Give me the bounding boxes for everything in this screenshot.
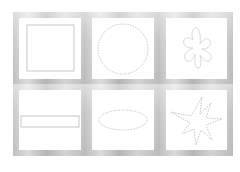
shape-grid xyxy=(13,12,233,156)
rectangle-shape-icon xyxy=(19,90,81,150)
panel-canvas xyxy=(92,90,154,150)
flower-shape-icon xyxy=(166,18,227,79)
panel-ellipse xyxy=(86,84,160,156)
panel-canvas xyxy=(19,18,81,79)
panel-canvas xyxy=(166,90,227,150)
panel-canvas xyxy=(166,18,227,79)
panel-square xyxy=(13,12,87,85)
panel-star xyxy=(160,84,233,156)
panel-flower xyxy=(160,12,233,85)
panel-canvas xyxy=(92,18,154,79)
panel-canvas xyxy=(19,90,81,150)
circle-shape-icon xyxy=(92,18,154,79)
ellipse-shape-icon xyxy=(92,90,154,150)
panel-circle xyxy=(86,12,160,85)
star-shape-icon xyxy=(166,90,227,150)
square-shape-icon xyxy=(19,18,81,79)
panel-rectangle xyxy=(13,84,87,156)
